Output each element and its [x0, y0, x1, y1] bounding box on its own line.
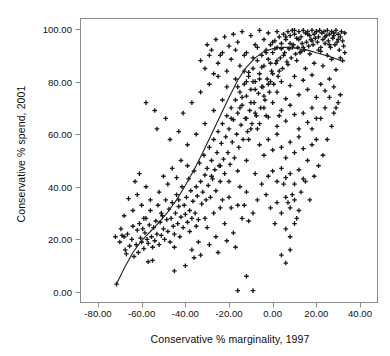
x-tick-label: 40.00 [330, 308, 390, 319]
chart-root: 0.0020.0040.0060.0080.00100.00 -80.00-60… [0, 0, 390, 356]
x-axis-tick-labels: -80.00-60.00-40.00-20.000.0020.0040.00 [0, 308, 390, 324]
scatter-plot-figure: 0.0020.0040.0060.0080.00100.00 -80.00-60… [0, 0, 390, 356]
y-tick-label: 0.00 [18, 286, 72, 297]
y-axis-tick-labels: 0.0020.0040.0060.0080.00100.00 [20, 0, 72, 356]
x-axis-title: Conservative % marginality, 1997 [80, 333, 380, 345]
y-axis-title: Conservative % spend, 2001 [15, 29, 27, 279]
